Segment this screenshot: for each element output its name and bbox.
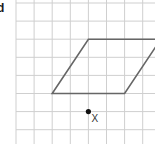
parallelogram-shape: [52, 39, 155, 93]
square-grid: [16, 0, 155, 144]
point-x-label: X: [91, 114, 98, 124]
grid-diagram: [0, 0, 155, 144]
point-x-dot: [86, 109, 91, 114]
